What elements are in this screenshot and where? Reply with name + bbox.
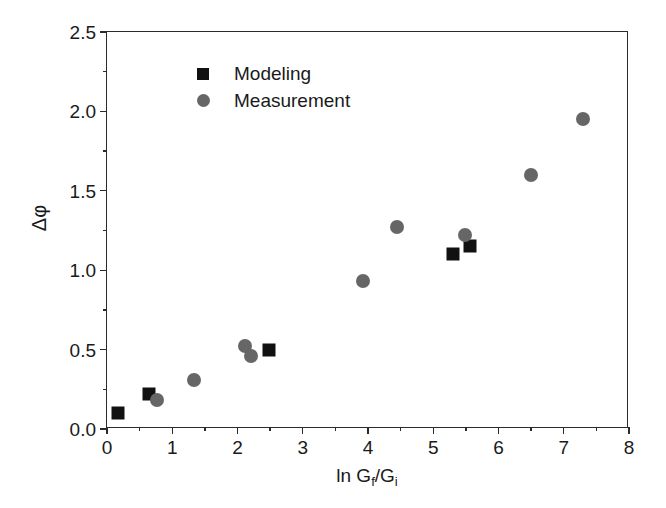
y-tick-major: [100, 111, 107, 112]
x-tick-major: [106, 427, 107, 434]
x-tick-minor: [139, 427, 140, 431]
x-tick-minor: [596, 427, 597, 431]
x-tick-minor: [335, 427, 336, 431]
y-tick-minor: [103, 230, 107, 231]
y-tick-label: 2.0: [70, 102, 96, 121]
data-point-measurement: [244, 349, 258, 363]
legend-label: Measurement: [234, 91, 350, 110]
x-tick-major: [498, 427, 499, 434]
x-tick-label: 3: [297, 438, 308, 457]
y-tick-major: [100, 31, 107, 32]
x-tick-major: [237, 427, 238, 434]
y-tick-minor: [103, 389, 107, 390]
data-point-modeling: [112, 407, 125, 420]
y-tick-label: 1.5: [70, 181, 96, 200]
y-tick-major: [100, 270, 107, 271]
legend-entry-modeling[interactable]: Modeling: [188, 60, 350, 87]
x-tick-minor: [269, 427, 270, 431]
data-point-measurement: [187, 373, 201, 387]
y-tick-label: 1.0: [70, 261, 96, 280]
y-tick-label: 2.5: [70, 23, 96, 42]
y-tick-minor: [103, 309, 107, 310]
x-tick-label: 6: [493, 438, 504, 457]
data-point-measurement: [524, 168, 538, 182]
x-axis-title-sub-f: f: [371, 474, 375, 489]
x-tick-minor: [204, 427, 205, 431]
legend-entry-measurement[interactable]: Measurement: [188, 87, 350, 114]
legend-label: Modeling: [234, 64, 311, 83]
data-point-modeling: [446, 248, 459, 261]
y-tick-minor: [103, 71, 107, 72]
x-tick-label: 5: [428, 438, 439, 457]
legend-swatch-container: [188, 68, 218, 80]
data-point-measurement: [150, 393, 164, 407]
circle-marker-icon: [197, 94, 210, 107]
y-tick-minor: [103, 150, 107, 151]
y-tick-label: 0.5: [70, 340, 96, 359]
x-tick-minor: [530, 427, 531, 431]
x-tick-label: 8: [624, 438, 635, 457]
legend-swatch-container: [188, 94, 218, 107]
x-tick-minor: [465, 427, 466, 431]
x-tick-label: 4: [363, 438, 374, 457]
x-axis-title-prefix: ln G: [336, 465, 371, 486]
scatter-chart-figure: 0.00.51.01.52.02.5 012345678 Δφ ln Gf/Gi…: [0, 0, 666, 508]
x-tick-major: [563, 427, 564, 434]
x-tick-major: [367, 427, 368, 434]
x-axis-title-middle: /G: [375, 465, 395, 486]
x-tick-label: 1: [167, 438, 178, 457]
x-tick-major: [172, 427, 173, 434]
x-tick-major: [628, 427, 629, 434]
square-marker-icon: [197, 68, 209, 80]
x-tick-minor: [400, 427, 401, 431]
data-point-measurement: [390, 220, 404, 234]
y-tick-major: [100, 349, 107, 350]
x-tick-major: [433, 427, 434, 434]
data-point-measurement: [576, 112, 590, 126]
y-tick-major: [100, 190, 107, 191]
y-axis-title: Δφ: [29, 205, 49, 231]
x-axis-title-sub-i: i: [395, 474, 398, 489]
data-point-measurement: [356, 274, 370, 288]
data-point-modeling: [262, 343, 275, 356]
x-tick-label: 0: [102, 438, 113, 457]
x-axis-title: ln Gf/Gi: [106, 466, 628, 485]
x-tick-label: 7: [558, 438, 569, 457]
data-point-measurement: [458, 228, 472, 242]
plot-area: 0.00.51.01.52.02.5 012345678: [106, 31, 628, 428]
y-tick-label: 0.0: [70, 420, 96, 439]
x-tick-label: 2: [232, 438, 243, 457]
x-tick-major: [302, 427, 303, 434]
chart-legend: ModelingMeasurement: [188, 60, 350, 114]
